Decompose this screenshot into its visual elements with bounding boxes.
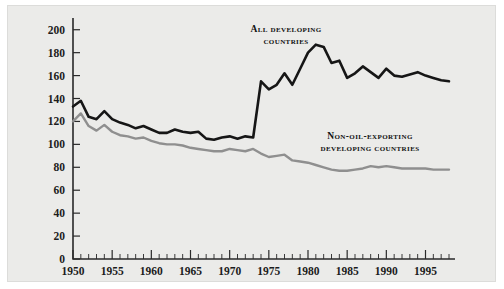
annotation-all-developing-line1: All developing xyxy=(250,24,321,34)
x-tick-label: 1980 xyxy=(297,265,320,277)
x-tick-label: 1990 xyxy=(375,265,398,277)
x-tick-label: 1985 xyxy=(336,265,359,277)
y-tick-label: 100 xyxy=(48,138,66,150)
y-tick-label: 20 xyxy=(54,230,66,242)
y-tick-label: 200 xyxy=(48,24,66,36)
x-axis-major-ticks: 1950195519601965197019751980198519901995 xyxy=(62,265,438,277)
annotation-non-oil-line2: developing countries xyxy=(320,143,419,153)
y-tick-label: 160 xyxy=(48,70,66,82)
line-chart: 020406080100120140160180200 195019551960… xyxy=(8,6,497,283)
x-tick-label: 1970 xyxy=(218,265,241,277)
x-tick-label: 1955 xyxy=(101,265,124,277)
x-tick-label: 1960 xyxy=(140,265,163,277)
x-tick-label: 1995 xyxy=(414,265,437,277)
chart-figure: 020406080100120140160180200 195019551960… xyxy=(7,5,496,282)
annotation-non-oil-line1: Non-oil-exporting xyxy=(327,131,413,141)
y-tick-label: 140 xyxy=(48,93,66,105)
x-tick-label: 1950 xyxy=(62,265,85,277)
y-tick-label: 0 xyxy=(59,253,65,265)
y-tick-label: 80 xyxy=(54,161,66,173)
x-tick-label: 1975 xyxy=(257,265,280,277)
y-tick-label: 120 xyxy=(48,115,66,127)
y-tick-label: 180 xyxy=(48,47,66,59)
x-tick-label: 1965 xyxy=(179,265,202,277)
y-tick-label: 60 xyxy=(54,184,66,196)
y-tick-label: 40 xyxy=(54,207,66,219)
series-line-all-developing xyxy=(73,45,449,140)
y-axis-ticks: 020406080100120140160180200 xyxy=(48,24,80,265)
x-axis-minor-ticks xyxy=(73,250,449,259)
annotation-all-developing-line2: countries xyxy=(263,36,308,46)
